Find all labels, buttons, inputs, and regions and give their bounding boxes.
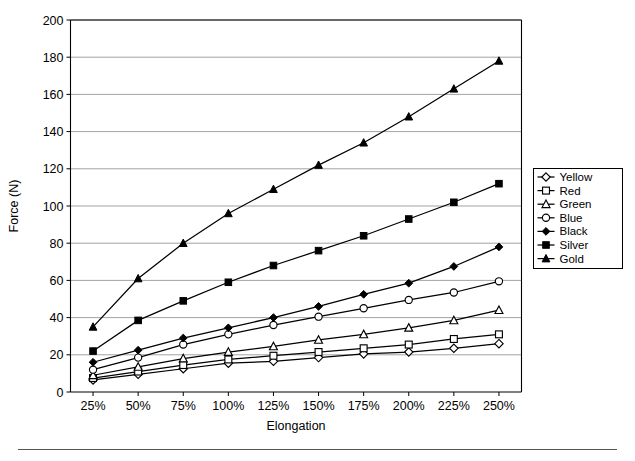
data-point-marker	[315, 349, 322, 356]
data-point-marker	[496, 331, 503, 338]
chart-figure: 02040608010012014016018020025%50%75%100%…	[0, 0, 635, 461]
data-point-marker	[180, 298, 187, 305]
x-tick-label-2: 75%	[171, 399, 196, 413]
x-tick-label-3: 100%	[212, 399, 244, 413]
data-point-marker	[270, 262, 277, 269]
data-point-marker	[450, 289, 457, 296]
y-axis-title: Force (N)	[7, 180, 21, 233]
data-point-marker	[542, 214, 549, 221]
legend-label-gold: Gold	[560, 253, 584, 265]
data-point-marker	[360, 232, 367, 239]
y-tick-label-80: 80	[50, 237, 64, 251]
data-point-marker	[135, 317, 142, 324]
data-point-marker	[450, 336, 457, 343]
data-point-marker	[315, 313, 322, 320]
data-point-marker	[543, 187, 550, 194]
y-tick-label-160: 160	[43, 88, 64, 102]
y-tick-label-200: 200	[43, 14, 64, 28]
data-point-marker	[405, 216, 412, 223]
data-point-marker	[270, 352, 277, 359]
data-point-marker	[270, 321, 277, 328]
y-tick-label-120: 120	[43, 162, 64, 176]
data-point-marker	[495, 278, 502, 285]
data-point-marker	[451, 199, 458, 206]
x-tick-label-1: 50%	[126, 399, 151, 413]
x-tick-label-6: 175%	[348, 399, 380, 413]
x-tick-label-5: 150%	[303, 399, 335, 413]
x-axis-title: Elongation	[266, 419, 325, 433]
data-point-marker	[180, 362, 187, 369]
y-tick-label-180: 180	[43, 51, 64, 65]
legend-label-green: Green	[560, 198, 592, 210]
x-tick-labels: 25%50%75%100%125%150%175%200%225%250%	[81, 392, 515, 413]
y-tick-labels: 020406080100120140160180200	[43, 14, 71, 400]
y-tick-label-100: 100	[43, 200, 64, 214]
data-point-marker	[360, 345, 367, 352]
legend-label-blue: Blue	[560, 212, 583, 224]
data-point-marker	[360, 305, 367, 312]
data-point-marker	[315, 247, 322, 254]
y-tick-label-60: 60	[50, 274, 64, 288]
y-tick-label-20: 20	[50, 348, 64, 362]
x-tick-label-7: 200%	[393, 399, 425, 413]
x-tick-label-4: 125%	[257, 399, 289, 413]
y-tick-label-40: 40	[50, 311, 64, 325]
data-point-marker	[543, 242, 550, 249]
data-point-marker	[90, 348, 97, 355]
legend-label-yellow: Yellow	[560, 171, 594, 183]
y-tick-label-0: 0	[57, 386, 64, 400]
y-tick-label-140: 140	[43, 125, 64, 139]
data-point-marker	[225, 279, 232, 286]
data-point-marker	[405, 296, 412, 303]
data-point-marker	[496, 180, 503, 187]
legend-label-black: Black	[560, 225, 588, 237]
x-tick-label-9: 250%	[483, 399, 515, 413]
legend: YellowRedGreenBlueBlackSilverGold	[534, 169, 623, 269]
line-chart: 02040608010012014016018020025%50%75%100%…	[0, 0, 635, 461]
x-tick-label-0: 25%	[81, 399, 106, 413]
x-tick-label-8: 225%	[438, 399, 470, 413]
legend-item-yellow[interactable]: Yellow	[538, 171, 594, 183]
legend-label-silver: Silver	[560, 239, 589, 251]
data-point-marker	[89, 366, 96, 373]
data-point-marker	[225, 356, 232, 363]
legend-label-red: Red	[560, 185, 581, 197]
data-point-marker	[135, 354, 142, 361]
data-point-marker	[405, 341, 412, 348]
